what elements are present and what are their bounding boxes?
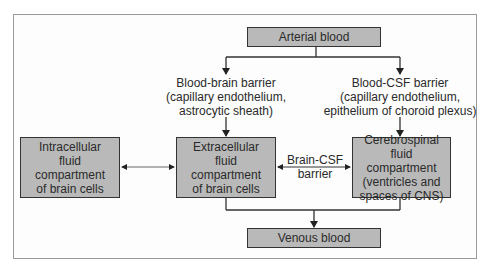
blood-csf-barrier-label: Blood-CSF barrier (capillary endothelium… xyxy=(318,76,482,118)
csf-compartment-label: Cerebrospinal fluid compartment (ventric… xyxy=(353,133,450,203)
venous-blood-label: Venous blood xyxy=(278,231,351,245)
extracellular-fluid-label: Extracellular fluid compartment of brain… xyxy=(191,140,261,196)
intracellular-fluid-node: Intracellular fluid compartment of brain… xyxy=(20,137,120,198)
brain-csf-barrier-label: Brain-CSF barrier xyxy=(283,153,347,181)
arterial-blood-label: Arterial blood xyxy=(279,30,350,44)
extracellular-fluid-node: Extracellular fluid compartment of brain… xyxy=(176,137,276,198)
venous-blood-node: Venous blood xyxy=(247,228,381,248)
intracellular-fluid-label: Intracellular fluid compartment of brain… xyxy=(35,140,105,196)
csf-compartment-node: Cerebrospinal fluid compartment (ventric… xyxy=(352,137,451,198)
arterial-blood-node: Arterial blood xyxy=(247,27,381,47)
blood-brain-barrier-label: Blood-brain barrier (capillary endotheli… xyxy=(156,76,296,118)
